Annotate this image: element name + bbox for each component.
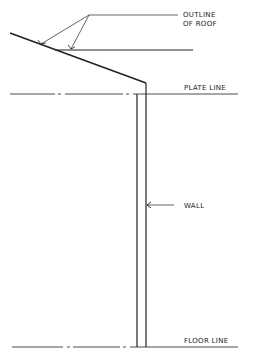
arrowhead-icon bbox=[68, 45, 75, 49]
roof-slope-line bbox=[10, 33, 146, 83]
floor-line-label: FLOOR LINE bbox=[184, 337, 228, 345]
plate-line-label: PLATE LINE bbox=[184, 84, 226, 92]
leader-line-to-slope bbox=[41, 15, 89, 44]
outline-of-roof-label-2: OF ROOF bbox=[183, 20, 217, 28]
outline-of-roof-label-1: OUTLINE bbox=[183, 11, 216, 19]
wall-section-diagram: OUTLINE OF ROOF PLATE LINE WALL FLOOR LI… bbox=[0, 0, 253, 355]
wall-label: WALL bbox=[184, 202, 204, 210]
